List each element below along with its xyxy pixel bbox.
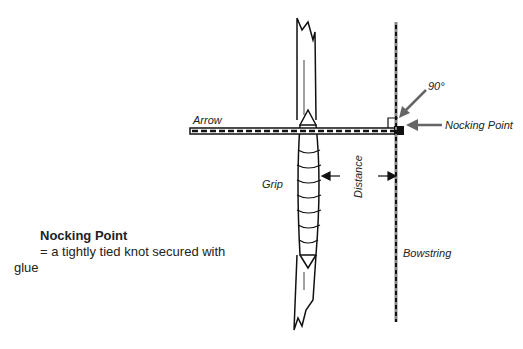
arrow-label: Arrow: [193, 114, 222, 126]
distance-label: Distance: [352, 155, 364, 198]
grip-label: Grip: [262, 178, 283, 190]
caption-title: Nocking Point: [14, 228, 244, 244]
nocking-point-caption: Nocking Point = a tightly tied knot secu…: [14, 228, 244, 276]
angle-pointer-arrow: [399, 90, 426, 118]
arrow-shaft: [190, 126, 404, 135]
caption-definition: = a tightly tied knot secured with glue: [14, 244, 244, 276]
bow-riser: [294, 18, 321, 330]
nocking-point-pointer-arrow: [406, 119, 442, 131]
bowstring-label: Bowstring: [403, 247, 451, 259]
nocking-point-label: Nocking Point: [445, 119, 513, 131]
angle-label: 90°: [428, 80, 445, 92]
bow-diagram: [0, 0, 523, 349]
